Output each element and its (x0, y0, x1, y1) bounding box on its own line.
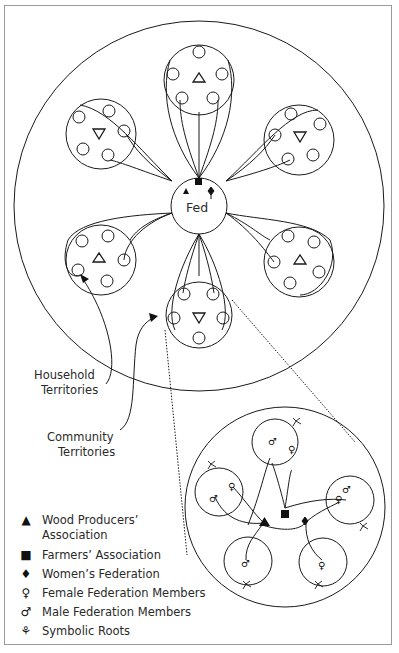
legend-item-female-members: ♀ Female Federation Members (16, 586, 205, 605)
legend: ▲ Wood Producers’ Association ■ Farmers’… (16, 513, 205, 643)
community-upper-left (66, 99, 172, 181)
svg-text:♂: ♂ (342, 484, 351, 495)
svg-text:♂: ♂ (209, 493, 218, 504)
community-bottom (166, 234, 232, 348)
square-icon (195, 178, 202, 185)
legend-label: Female Federation Members (42, 586, 205, 601)
female-icon: ♀ (16, 586, 36, 601)
roots-icon: ⚘ (16, 624, 36, 639)
svg-text:♂: ♂ (241, 558, 250, 569)
inset-member-symbols: ♂♀ ♂♀ ♂♀ ♂ ♀ (209, 436, 351, 571)
community-arrow (120, 318, 153, 430)
legend-item-wood-producers: ▲ Wood Producers’ Association (16, 513, 205, 548)
inset-community (185, 407, 385, 607)
roots-icon (208, 461, 216, 469)
svg-text:♀: ♀ (288, 444, 295, 455)
legend-label: Symbolic Roots (42, 624, 130, 639)
community-arrowhead (149, 313, 158, 322)
fed-label: Fed (186, 200, 208, 215)
svg-text:♂: ♂ (268, 436, 277, 447)
diamond-icon (302, 517, 308, 525)
community-upper-right (226, 105, 334, 181)
community-lower-left (65, 213, 172, 295)
roots-icon (293, 418, 301, 426)
roots-icon (360, 523, 368, 531)
svg-text:♀: ♀ (318, 560, 325, 571)
household-left (195, 468, 243, 516)
diamond-icon (208, 187, 214, 199)
square-icon: ■ (16, 548, 36, 563)
legend-label: Male Federation Members (42, 605, 191, 620)
svg-text:♀: ♀ (335, 494, 342, 505)
legend-item-farmers: ■ Farmers’ Association (16, 548, 205, 567)
household-label-line1: Household (34, 368, 95, 383)
community-label-line2: Territories (58, 445, 115, 460)
zoom-line-right (232, 300, 355, 442)
triangle-icon: ▲ (16, 513, 36, 528)
triangle-icon (259, 517, 270, 526)
legend-label: Farmers’ Association (42, 548, 161, 563)
community-lower-right (226, 213, 334, 297)
household-arrowhead (80, 274, 89, 283)
legend-item-male-members: ♂ Male Federation Members (16, 605, 205, 624)
community-label-line1: Community (47, 430, 114, 445)
svg-text:♀: ♀ (228, 481, 235, 492)
community-top (164, 45, 234, 178)
legend-item-symbolic-roots: ⚘ Symbolic Roots (16, 624, 205, 643)
legend-label-line2: Association (42, 528, 107, 542)
legend-label: Women’s Federation (42, 567, 160, 582)
household-label-line2: Territories (41, 383, 98, 398)
community-petals (65, 45, 334, 348)
square-icon (281, 510, 289, 518)
legend-item-womens-federation: ♦ Women’s Federation (16, 567, 205, 586)
diamond-icon: ♦ (16, 567, 36, 582)
legend-label: Wood Producers’ (42, 513, 138, 527)
male-icon: ♂ (16, 605, 36, 620)
triangle-icon (183, 188, 189, 194)
